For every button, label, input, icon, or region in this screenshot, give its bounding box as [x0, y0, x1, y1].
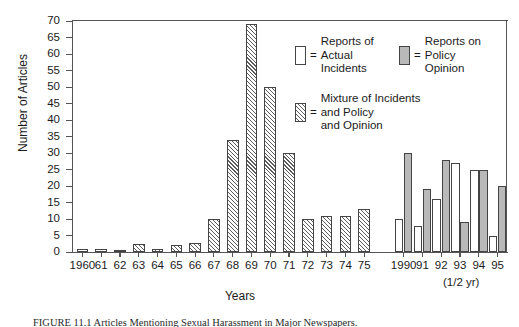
bar-mixture [152, 249, 164, 252]
x-tick-mark [213, 252, 214, 257]
legend-equals-sign: = [414, 49, 421, 63]
bar-actual-incidents [432, 199, 440, 252]
legend-item-mixture: = Mixture of Incidents and Policy and Op… [295, 92, 420, 133]
y-tick-mark [66, 136, 72, 137]
x-tick-mark [288, 252, 289, 257]
x-tick-mark [119, 252, 120, 257]
y-tick-label: 5 [20, 230, 60, 242]
x-tick-mark [195, 252, 196, 257]
bar-mixture [302, 219, 314, 252]
y-tick-mark [66, 186, 72, 187]
y-tick-label: 20 [20, 180, 60, 192]
bar-policy-opinion [460, 222, 468, 252]
y-tick-label: 25 [20, 164, 60, 176]
y-tick-mark [66, 37, 72, 38]
x-tick-label: 95 [476, 259, 519, 271]
bar-mixture [227, 140, 239, 252]
y-tick-mark [66, 219, 72, 220]
y-tick-label: 35 [20, 131, 60, 143]
y-tick-label: 30 [20, 147, 60, 159]
y-tick-label: 60 [20, 48, 60, 60]
legend-swatch-gray-icon [399, 46, 410, 65]
x-axis-title: Years [200, 289, 280, 303]
x-tick-mark [422, 252, 423, 257]
y-tick-label: 55 [20, 65, 60, 77]
y-tick-mark [66, 21, 72, 22]
y-tick-mark [66, 54, 72, 55]
bar-actual-incidents [77, 249, 89, 252]
x-tick-mark [497, 252, 498, 257]
x-tick-mark [441, 252, 442, 257]
x-tick-mark [82, 252, 83, 257]
legend-item-actual-incidents: = Reports of Actual Incidents [295, 35, 374, 76]
bar-actual-incidents [489, 236, 497, 253]
x-tick-mark [364, 252, 365, 257]
x-tick-mark [232, 252, 233, 257]
x-tick-mark [101, 252, 102, 257]
bar-actual-incidents [451, 163, 459, 252]
x-tick-mark [270, 252, 271, 257]
bar-actual-incidents [470, 170, 478, 253]
y-tick-mark [66, 153, 72, 154]
x-tick-mark [403, 252, 404, 257]
bar-mixture [340, 216, 352, 252]
legend-swatch-hatch-icon [295, 103, 306, 122]
bar-actual-incidents [395, 219, 403, 252]
legend-item-policy-opinion: = Reports on Policy Opinion [399, 35, 481, 76]
x-tick-mark [251, 252, 252, 257]
x-tick-mark [176, 252, 177, 257]
x-tick-label: 75 [342, 259, 386, 271]
y-tick-mark [66, 103, 72, 104]
bar-mixture [283, 153, 295, 252]
bar-policy-opinion [423, 189, 431, 252]
legend-equals-sign: = [310, 49, 317, 63]
y-tick-label: 50 [20, 81, 60, 93]
y-tick-label: 15 [20, 197, 60, 209]
y-tick-label: 10 [20, 213, 60, 225]
bar-actual-incidents [95, 249, 107, 252]
bar-policy-opinion [498, 186, 506, 252]
bar-policy-opinion [479, 170, 487, 253]
x-tick-mark [326, 252, 327, 257]
x-tick-mark [478, 252, 479, 257]
bar-policy-opinion [404, 153, 412, 252]
y-tick-label: 40 [20, 114, 60, 126]
bar-mixture [321, 216, 333, 252]
y-tick-mark [66, 87, 72, 88]
y-tick-mark [66, 120, 72, 121]
y-tick-label: 70 [20, 15, 60, 27]
bar-mixture [133, 244, 145, 252]
y-tick-mark [66, 252, 72, 253]
bar-actual-incidents [414, 226, 422, 252]
y-tick-label: 45 [20, 98, 60, 110]
legend-swatch-white-icon [295, 46, 306, 65]
x-tick-mark [138, 252, 139, 257]
y-tick-mark [66, 235, 72, 236]
y-tick-mark [66, 70, 72, 71]
figure-caption: FIGURE 11.1 Articles Mentioning Sexual H… [33, 317, 503, 327]
bar-mixture [189, 243, 201, 252]
half-year-note: (1/2 yr) [443, 276, 479, 288]
legend-label-mixture: Mixture of Incidents and Policy and Opin… [321, 92, 421, 133]
bar-mixture [171, 245, 183, 252]
bar-mixture [358, 209, 370, 252]
bar-mixture [208, 219, 220, 252]
x-tick-mark [459, 252, 460, 257]
bar-mixture [264, 87, 276, 252]
x-tick-mark [307, 252, 308, 257]
legend-equals-sign: = [310, 106, 317, 120]
y-tick-label: 0 [20, 246, 60, 258]
y-tick-mark [66, 169, 72, 170]
y-tick-label: 65 [20, 32, 60, 44]
bar-policy-opinion [442, 160, 450, 252]
legend-label-actual-incidents: Reports of Actual Incidents [321, 35, 374, 76]
figure-container: Number of Articles Years (1/2 yr) 051015… [0, 0, 519, 327]
x-tick-mark [345, 252, 346, 257]
legend-label-policy-opinion: Reports on Policy Opinion [425, 35, 481, 76]
x-tick-mark [157, 252, 158, 257]
bar-actual-incidents [114, 250, 126, 252]
bar-mixture [246, 24, 258, 252]
y-tick-mark [66, 202, 72, 203]
